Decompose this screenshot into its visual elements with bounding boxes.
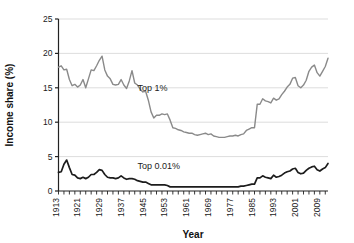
series-annotation-top-001-percent: Top 0.01% bbox=[137, 161, 180, 171]
x-tick-label-1985: 1985 bbox=[247, 198, 257, 217]
x-tick-label-1961: 1961 bbox=[181, 198, 191, 217]
x-tick-label-1913: 1913 bbox=[51, 198, 61, 217]
x-axis-title: Year bbox=[182, 229, 203, 240]
x-tick-label-1993: 1993 bbox=[268, 198, 278, 217]
y-tick-label-20: 20 bbox=[43, 48, 53, 58]
y-tick-label-0: 0 bbox=[48, 186, 53, 196]
x-tick-label-1921: 1921 bbox=[72, 198, 82, 217]
y-axis-title: Income share (%) bbox=[4, 64, 15, 147]
x-tick-label-1969: 1969 bbox=[203, 198, 213, 217]
y-tick-label-25: 25 bbox=[43, 14, 53, 24]
y-tick-label-10: 10 bbox=[43, 117, 53, 127]
x-tick-label-1945: 1945 bbox=[138, 198, 148, 217]
x-tick-label-1977: 1977 bbox=[225, 198, 235, 217]
x-tick-label-2001: 2001 bbox=[290, 198, 300, 217]
x-tick-label-1953: 1953 bbox=[159, 198, 169, 217]
y-tick-label-5: 5 bbox=[48, 152, 53, 162]
income-share-line-chart: 0510152025 19131921192919371945195319611… bbox=[0, 0, 354, 243]
x-tick-label-1937: 1937 bbox=[116, 198, 126, 217]
series-annotation-top-1-percent: Top 1% bbox=[137, 83, 167, 93]
y-tick-label-15: 15 bbox=[43, 83, 53, 93]
chart-container: 0510152025 19131921192919371945195319611… bbox=[0, 0, 354, 243]
x-tick-label-2009: 2009 bbox=[312, 198, 322, 217]
x-tick-label-1929: 1929 bbox=[94, 198, 104, 217]
